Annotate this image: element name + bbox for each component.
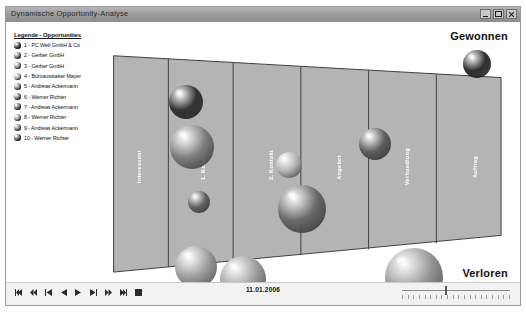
bottom-toolbar: 11.01.2006 (6, 282, 520, 305)
bubble-highlight (281, 156, 285, 159)
legend-item[interactable]: 8 - Werner Richter (14, 112, 102, 122)
slider-tick (458, 295, 459, 299)
slider-tick (441, 295, 442, 299)
slider-tick (481, 295, 482, 299)
stage-label-verhandlung: Verhandlung (404, 148, 410, 185)
opportunity-bubble[interactable] (170, 125, 214, 169)
outcome-label-lost: Verloren (462, 267, 508, 279)
slider-tick (509, 295, 510, 299)
stage-label-auftrag: Auftrag (472, 156, 478, 178)
slider-tick (464, 295, 465, 299)
legend-bubble-icon (14, 114, 21, 121)
slider-tick (436, 295, 437, 299)
legend-bubble-icon (14, 73, 21, 80)
slider-tick (498, 295, 499, 299)
slider-tick (453, 295, 454, 299)
bubble-highlight (288, 192, 296, 198)
legend-item[interactable]: 2 - Gerber GmbH (14, 50, 102, 60)
legend-title: Legende - Opportunities (14, 32, 102, 38)
stage-label-angebot: Angebot (336, 155, 342, 180)
slider-tick (470, 295, 471, 299)
application-window: Dynamische Opportunity-Analyse Interesse… (5, 6, 521, 306)
bubble-highlight (366, 133, 371, 137)
bubble-highlight (469, 54, 473, 58)
opportunity-bubble[interactable] (188, 191, 210, 213)
opportunity-bubble[interactable] (463, 50, 491, 78)
slider-tick (503, 295, 504, 299)
legend-item[interactable]: 7 - Andreas Ackermann (14, 102, 102, 112)
legend-item[interactable]: 4 - Büroausstatter Mayer (14, 71, 102, 81)
opportunity-bubble[interactable] (175, 246, 217, 283)
outcome-label-won: Gewonnen (450, 30, 508, 42)
opportunity-bubble[interactable] (278, 185, 326, 233)
bubble-highlight (176, 90, 181, 94)
slider-tick (447, 295, 448, 299)
title-bar: Dynamische Opportunity-Analyse (6, 7, 520, 23)
slider-tick (475, 295, 476, 299)
window-controls (480, 9, 517, 19)
slider-tick (492, 295, 493, 299)
legend-bubble-icon (14, 134, 21, 141)
legend-bubble-icon (14, 52, 21, 59)
maximize-button[interactable] (493, 9, 504, 19)
funnel-body (114, 56, 501, 272)
bubble-highlight (397, 257, 406, 265)
chart-canvas: Interessent 1. Kontakt 2. Kontakt Angebo… (6, 22, 520, 283)
minimize-button[interactable] (480, 9, 491, 19)
legend-item-label: 7 - Andreas Ackermann (24, 104, 78, 110)
slider-tick (402, 295, 403, 299)
legend-item[interactable]: 3 - Gerber GmbH (14, 61, 102, 71)
legend-item-label: 4 - Büroausstatter Mayer (24, 73, 81, 79)
bubble-highlight (193, 194, 197, 197)
slider-tick (486, 295, 487, 299)
legend-item[interactable]: 10 - Werner Richter (14, 133, 102, 143)
opportunity-bubble[interactable] (169, 85, 203, 119)
legend-item-label: 6 - Werner Richter (24, 94, 66, 100)
legend-item-label: 9 - Andreas Ackermann (24, 125, 78, 131)
legend-item[interactable]: 9 - Andreas Ackermann (14, 122, 102, 132)
slider-track[interactable] (402, 290, 510, 291)
legend-item-label: 10 - Werner Richter (24, 135, 69, 141)
legend-item[interactable]: 1 - PC Welt GmbH & Co (14, 40, 102, 50)
legend-bubble-icon (14, 93, 21, 100)
stage-label-interessent: Interessent (136, 150, 142, 183)
opportunity-bubble[interactable] (276, 152, 302, 178)
legend-item-label: 5 - Andreas Ackermann (24, 83, 78, 89)
slider-tick (425, 295, 426, 299)
slider-tick (430, 295, 431, 299)
slider-tick (419, 295, 420, 299)
bubble-highlight (230, 263, 237, 269)
legend-list: 1 - PC Welt GmbH & Co2 - Gerber GmbH3 - … (14, 40, 102, 143)
slider-tick (413, 295, 414, 299)
legend-bubble-icon (14, 103, 21, 110)
slider-tick (408, 295, 409, 299)
legend-panel: Legende - Opportunities 1 - PC Welt GmbH… (14, 32, 102, 143)
legend-item[interactable]: 6 - Werner Richter (14, 91, 102, 101)
close-button[interactable] (506, 9, 517, 19)
opportunity-bubble[interactable] (359, 128, 391, 160)
legend-bubble-icon (14, 42, 21, 49)
window-title: Dynamische Opportunity-Analyse (11, 9, 128, 18)
legend-item-label: 2 - Gerber GmbH (24, 52, 64, 58)
timeline-slider[interactable] (402, 286, 510, 302)
slider-thumb[interactable] (445, 286, 447, 295)
slider-ticks (402, 295, 510, 301)
legend-item[interactable]: 5 - Andreas Ackermann (14, 81, 102, 91)
legend-bubble-icon (14, 62, 21, 69)
legend-item-label: 8 - Werner Richter (24, 114, 66, 120)
legend-bubble-icon (14, 83, 21, 90)
stage-label-2-kontakt: 2. Kontakt (268, 150, 274, 180)
bubble-highlight (179, 132, 186, 138)
legend-item-label: 3 - Gerber GmbH (24, 63, 64, 69)
legend-item-label: 1 - PC Welt GmbH & Co (24, 42, 80, 48)
bubble-highlight (184, 252, 191, 257)
legend-bubble-icon (14, 124, 21, 131)
